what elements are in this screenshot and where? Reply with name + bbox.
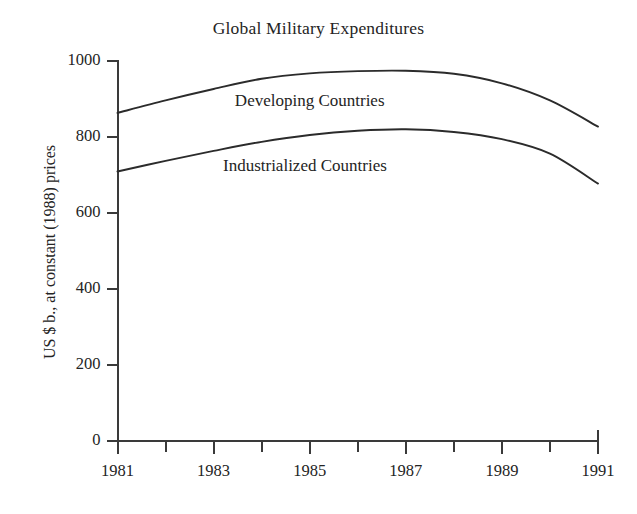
- x-tick-label-1987: 1987: [371, 461, 441, 481]
- y-tick-label-600: 600: [31, 202, 101, 222]
- axes-group: [107, 60, 599, 454]
- chart-figure: Global Military Expenditures US $ b., at…: [0, 0, 637, 514]
- y-tick-label-200: 200: [31, 354, 101, 374]
- x-tick-label-1985: 1985: [275, 461, 345, 481]
- y-tick-label-800: 800: [31, 126, 101, 146]
- y-tick-label-0: 0: [31, 430, 101, 450]
- y-tick-label-400: 400: [31, 278, 101, 298]
- series-label-industrialized-countries: Industrialized Countries: [223, 156, 387, 176]
- x-tick-label-1981: 1981: [83, 461, 153, 481]
- y-tick-label-1000: 1000: [31, 50, 101, 70]
- x-tick-label-1989: 1989: [467, 461, 537, 481]
- x-tick-label-1983: 1983: [179, 461, 249, 481]
- series-label-developing-countries: Developing Countries: [235, 91, 385, 111]
- x-tick-label-1991: 1991: [563, 461, 633, 481]
